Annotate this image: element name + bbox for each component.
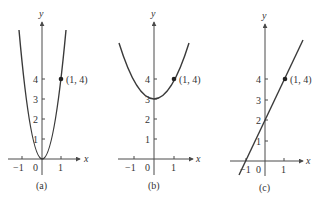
y-tick-label: 4 <box>256 74 261 85</box>
y-tick-label: 2 <box>33 114 38 125</box>
point-label: (1, 4) <box>179 74 201 86</box>
caption-b: (b) <box>148 180 160 192</box>
y-tick-label: 2 <box>145 114 150 125</box>
y-tick-label: 3 <box>33 94 38 105</box>
y-axis-label: y <box>38 8 44 19</box>
x-axis-label: x <box>305 155 311 166</box>
figure-three-graphs: x y −1 0 1 1 2 3 4 (1, 4) (a) x y −1 0 1 <box>0 0 318 202</box>
y-tick-label: 2 <box>256 115 261 126</box>
x-axis-label: x <box>195 153 201 164</box>
x-tick-label: −1 <box>13 162 24 173</box>
y-tick-label: 1 <box>145 134 150 145</box>
graph-panel-a: x y −1 0 1 1 2 3 4 (1, 4) (a) <box>8 8 89 192</box>
y-tick-label: 4 <box>33 74 38 85</box>
x-axis-label: x <box>83 153 89 164</box>
point-marker <box>283 77 288 82</box>
caption-a: (a) <box>36 180 47 192</box>
point-marker <box>59 77 64 82</box>
graph-panel-c: x y −1 0 1 1 2 3 4 (1, 4) (c) <box>230 10 312 194</box>
y-axis-label: y <box>150 8 156 19</box>
y-tick-label: 4 <box>145 74 150 85</box>
graph-panel-b: x y −1 0 1 1 2 3 4 (1, 4) (b) <box>118 8 201 192</box>
x-tick-label: 0 <box>33 162 38 173</box>
x-tick-label: 1 <box>281 164 286 175</box>
x-tick-label: 1 <box>171 162 176 173</box>
x-tick-label: 0 <box>145 162 150 173</box>
caption-c: (c) <box>259 182 270 194</box>
point-marker <box>172 77 177 82</box>
point-label: (1, 4) <box>290 74 312 86</box>
linear-curve <box>239 40 303 175</box>
x-tick-label: 1 <box>58 162 63 173</box>
y-axis-label: y <box>261 10 267 21</box>
x-tick-label: −1 <box>125 162 136 173</box>
x-tick-label: 0 <box>256 164 261 175</box>
point-label: (1, 4) <box>66 74 88 86</box>
y-tick-label: 3 <box>256 95 261 106</box>
